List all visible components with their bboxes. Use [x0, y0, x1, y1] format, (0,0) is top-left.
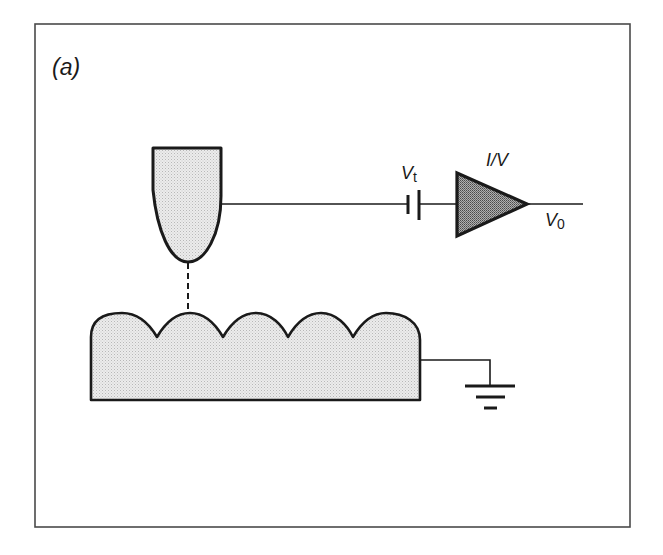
ground-wire [420, 360, 490, 386]
ground-icon [465, 386, 515, 408]
amplifier-label: I/V [486, 150, 508, 171]
stm-diagram [0, 0, 663, 555]
current-voltage-amplifier [457, 173, 527, 236]
sample-surface [91, 313, 420, 400]
figure-frame [35, 24, 630, 527]
bias-voltage-subscript: t [413, 169, 417, 185]
bias-voltage-label: Vt [401, 163, 417, 185]
panel-label: (a) [52, 54, 80, 81]
bias-voltage-symbol: V [401, 163, 413, 183]
output-voltage-symbol: V [545, 210, 557, 230]
stm-tip [153, 148, 221, 262]
output-voltage-label: V0 [545, 210, 565, 232]
bias-battery [408, 190, 419, 220]
output-voltage-subscript: 0 [557, 216, 565, 232]
